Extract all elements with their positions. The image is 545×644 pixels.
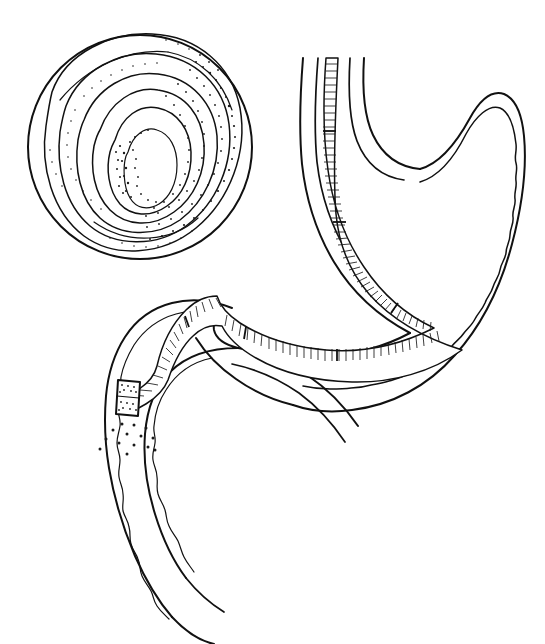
inset-circle-outline [28, 35, 252, 259]
illustration-canvas [0, 0, 545, 644]
pyloric-sphincter-inset [28, 34, 252, 259]
tube-tip [116, 380, 140, 416]
medical-illustration-figure: Nasoenteric feeding tube placement throu… [0, 0, 545, 644]
